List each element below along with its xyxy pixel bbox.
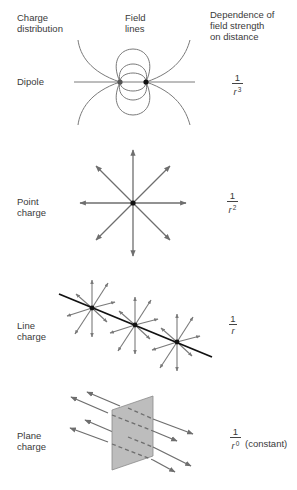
field-line <box>146 40 190 82</box>
plane-charge-diagram <box>70 392 193 472</box>
field-arrow <box>96 203 133 240</box>
negative-charge <box>117 79 122 84</box>
field-line <box>78 40 120 82</box>
field-arrow <box>87 392 120 406</box>
point-charge <box>130 200 135 205</box>
field-arrow <box>153 460 175 472</box>
charge-point <box>133 323 138 328</box>
charged-plane <box>112 396 153 470</box>
field-line <box>146 82 190 125</box>
positive-charge <box>143 79 148 84</box>
field-arrow <box>133 166 170 203</box>
field-line <box>78 82 120 125</box>
field-arrow <box>153 431 177 441</box>
field-line <box>120 82 146 91</box>
charge-point <box>90 306 95 311</box>
diagram-canvas <box>0 0 297 490</box>
field-arrow <box>133 203 170 240</box>
field-arrow <box>70 428 108 442</box>
charge-point <box>175 340 180 345</box>
field-arrow <box>96 166 133 203</box>
field-arrow <box>71 397 108 413</box>
field-arrow <box>153 419 193 434</box>
dipole-diagram <box>74 40 195 125</box>
field-line <box>120 73 146 82</box>
